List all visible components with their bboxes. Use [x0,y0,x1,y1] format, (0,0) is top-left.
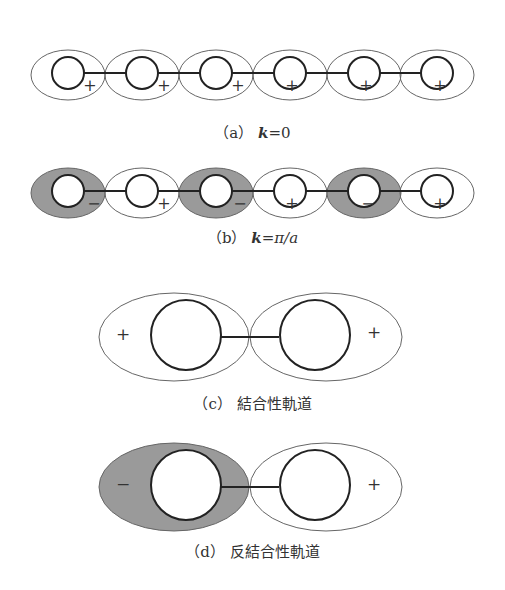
sign-label: − [230,194,250,213]
caption-a-value: =0 [269,124,291,142]
sign-label: + [282,194,302,213]
caption-b-value: =π/a [262,229,298,247]
caption-b-k: k [251,229,261,247]
caption-c-label: （c） [193,395,231,413]
sign-label: − [113,474,133,494]
caption-c-title: 結合性軌道 [237,395,312,413]
sign-label: + [364,474,384,494]
bonding-orbital [99,293,402,381]
sign-label: + [113,324,133,344]
sign-label: + [154,76,174,95]
caption-b-label: （b） [207,229,247,247]
sign-label: + [282,76,302,95]
caption-a-label: （a） [214,124,253,142]
caption-a: （a） k=0 [0,121,505,142]
sign-label: + [228,76,248,95]
sign-label: + [356,76,376,95]
caption-d-title: 反結合性軌道 [230,543,320,561]
sign-label: + [430,76,450,95]
sign-label: + [364,322,384,342]
antibonding-orbital [99,443,402,531]
sign-label: + [80,76,100,95]
sign-label: + [430,194,450,213]
caption-d-label: （d） [185,543,225,561]
caption-b: （b） k=π/a [0,226,505,247]
sign-label: − [84,194,104,213]
sign-label: + [154,194,174,213]
caption-c: （c） 結合性軌道 [0,392,505,413]
caption-a-k: k [258,124,268,142]
sign-label: − [358,194,378,213]
caption-d: （d） 反結合性軌道 [0,540,505,561]
